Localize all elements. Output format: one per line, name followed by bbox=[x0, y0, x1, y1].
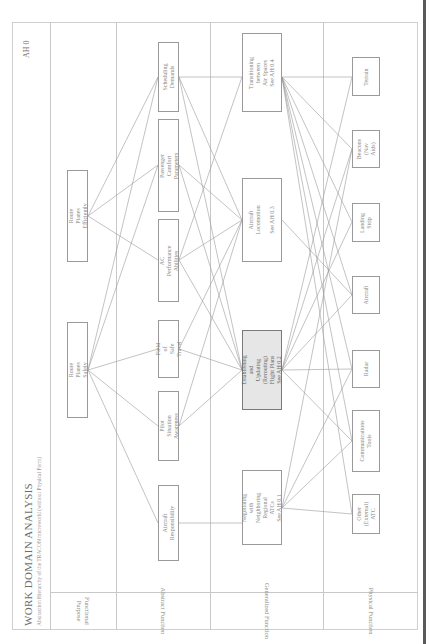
node-passenger-comfort-parameters: Passenger Comfort Parameters bbox=[158, 119, 179, 212]
node-field-of-safe-travel: Field of Safe Travel bbox=[158, 320, 179, 378]
node-negotiating-with-regional-atcs: Negotiating with Neighboring Regional AT… bbox=[242, 470, 282, 545]
node-other-external-atc: Other (External) ATC bbox=[352, 494, 380, 534]
node-route-planes-safely: Route Planes Safely bbox=[67, 322, 88, 418]
node-route-planes-efficiently: Route Planes Efficiently bbox=[67, 170, 88, 262]
node-scheduling-demands: Scheduling Demands bbox=[158, 42, 179, 112]
node-aircraft-locomotion: Aircraft Locomotion See AH 0.3 bbox=[242, 178, 282, 262]
node-radar: Radar bbox=[352, 350, 380, 388]
node-terrain: Terrain bbox=[352, 57, 380, 96]
node-pilot-situation-awareness: Pilot Situation Awareness bbox=[158, 391, 179, 461]
means-ends-links bbox=[0, 0, 432, 644]
node-beacons-nav-aids: Beacons (Nav Aids) bbox=[352, 130, 380, 168]
node-aircraft: Aircraft bbox=[352, 276, 380, 314]
node-communications-tools: Communications Tools bbox=[352, 410, 380, 472]
node-landing-strip: Landing Strip bbox=[352, 203, 380, 242]
node-aircraft-responsibility: Aircraft Responsibility bbox=[158, 485, 179, 561]
node-transitioning-between-air-spaces: Transitioning between Air Spaces See AH … bbox=[242, 33, 282, 112]
node-establishing-updating-flight-plans: Establishing and Updating (Rerouting) Fl… bbox=[242, 330, 282, 410]
node-ac-performance-abilities: AC Performance Abilities bbox=[158, 219, 179, 302]
